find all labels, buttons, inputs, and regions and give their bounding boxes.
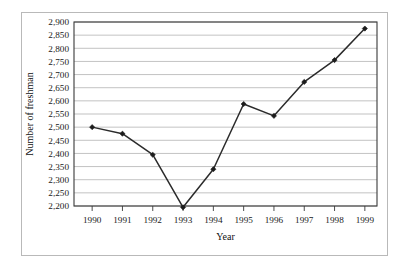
x-axis-tick-labels: 1990199119921993199419951996199719981999 — [83, 215, 374, 225]
x-tick-label: 1999 — [356, 215, 375, 225]
y-tick-label: 2,850 — [48, 30, 69, 40]
y-tick-label: 2,800 — [48, 44, 69, 54]
x-tick-label: 1998 — [325, 215, 344, 225]
y-tick-label: 2,500 — [48, 122, 69, 132]
y-axis-tick-labels: 2,2002,2502,3002,3502,4002,4502,5002,550… — [48, 17, 69, 211]
x-tick-label: 1990 — [83, 215, 102, 225]
y-tick-label: 2,400 — [48, 149, 69, 159]
x-tick-label: 1992 — [144, 215, 163, 225]
y-axis-title: Number of freshman — [24, 72, 35, 155]
data-point-markers — [90, 26, 368, 210]
x-tick-label: 1996 — [265, 215, 284, 225]
y-tick-label: 2,200 — [48, 201, 69, 211]
x-axis-title: Year — [216, 231, 235, 242]
x-axis-tick-marks — [92, 206, 365, 211]
x-tick-label: 1991 — [113, 215, 132, 225]
x-tick-label: 1993 — [174, 215, 193, 225]
y-tick-label: 2,750 — [48, 57, 69, 67]
y-tick-label: 2,300 — [48, 175, 69, 185]
y-tick-label: 2,550 — [48, 109, 69, 119]
data-series-line — [92, 29, 365, 208]
x-tick-label: 1995 — [234, 215, 253, 225]
data-point-1995 — [241, 101, 246, 106]
y-tick-label: 2,350 — [48, 162, 69, 172]
x-tick-label: 1994 — [204, 215, 223, 225]
data-point-1990 — [90, 125, 95, 130]
y-tick-label: 2,250 — [48, 188, 69, 198]
x-tick-label: 1997 — [295, 215, 314, 225]
y-tick-label: 2,650 — [48, 83, 69, 93]
y-tick-label: 2,450 — [48, 136, 69, 146]
line-chart: 2,2002,2502,3002,3502,4002,4502,5002,550… — [0, 0, 411, 274]
y-tick-label: 2,900 — [48, 17, 69, 27]
y-tick-label: 2,700 — [48, 70, 69, 80]
y-tick-label: 2,600 — [48, 96, 69, 106]
chart-canvas: 2,2002,2502,3002,3502,4002,4502,5002,550… — [0, 0, 411, 274]
gridlines-group — [74, 22, 377, 206]
